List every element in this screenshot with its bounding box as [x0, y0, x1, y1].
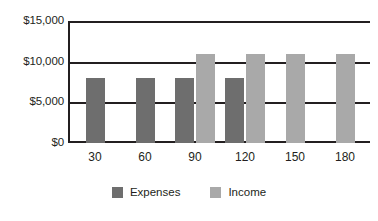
bar-expenses-60 [136, 78, 155, 143]
bar-chart: $0$5,000$10,000$15,000 306090120150180 E… [0, 0, 378, 221]
y-axis-tick-label: $0 [2, 137, 64, 149]
bar-income-90 [196, 54, 215, 143]
y-axis-tick-label: $15,000 [2, 15, 64, 27]
bar-income-150 [286, 54, 305, 143]
y-axis-tick-label: $5,000 [2, 96, 64, 108]
x-axis-labels: 306090120150180 [70, 150, 370, 168]
bar-group [120, 21, 170, 143]
bar-group [170, 21, 220, 143]
legend-label: Income [228, 186, 266, 198]
bar-income-120 [246, 54, 265, 143]
bar-group [220, 21, 270, 143]
x-axis-tick-label: 90 [170, 150, 220, 164]
legend-label: Expenses [130, 186, 181, 198]
expenses-swatch-icon [112, 187, 123, 198]
bar-group [270, 21, 320, 143]
y-axis-tick-label: $10,000 [2, 56, 64, 68]
bar-expenses-30 [86, 78, 105, 143]
income-swatch-icon [210, 187, 221, 198]
x-axis-tick-label: 120 [220, 150, 270, 164]
bars-layer [70, 21, 370, 143]
x-axis-tick-label: 30 [70, 150, 120, 164]
x-axis-tick-label: 180 [320, 150, 370, 164]
bar-group [70, 21, 120, 143]
x-axis-tick-label: 150 [270, 150, 320, 164]
bar-income-180 [336, 54, 355, 143]
x-axis-tick-label: 60 [120, 150, 170, 164]
bar-expenses-120 [225, 78, 244, 143]
legend-item-income[interactable]: Income [210, 186, 266, 198]
chart-legend: ExpensesIncome [0, 186, 378, 198]
legend-item-expenses[interactable]: Expenses [112, 186, 181, 198]
bar-expenses-90 [175, 78, 194, 143]
bar-group [320, 21, 370, 143]
